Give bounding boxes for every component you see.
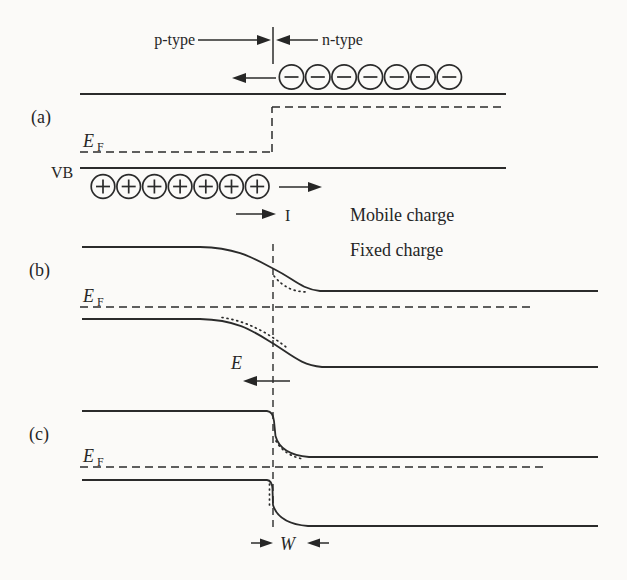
pn-junction-band-diagram: p-type n-type (a) E F VB I Mobile charge <box>0 0 627 580</box>
electron-icon <box>358 65 382 89</box>
width-arrow-right-icon <box>260 539 273 548</box>
fermi-label-a: E <box>82 131 94 151</box>
n-type-label: n-type <box>322 31 363 49</box>
electron-row <box>279 65 461 89</box>
panel-b-label: (b) <box>29 260 50 281</box>
hole-row <box>91 175 269 199</box>
fermi-label-b: E <box>82 286 94 306</box>
current-label: I <box>285 207 290 224</box>
panel-b: (b) E F E <box>29 247 598 386</box>
fixed-charge-label: Fixed charge <box>350 240 443 260</box>
panel-c: (c) E F W <box>29 411 598 554</box>
valence-band-curve-c <box>82 480 598 526</box>
fermi-label-c: E <box>82 446 94 466</box>
hole-flow-arrow-right-icon <box>308 182 322 192</box>
n-type-arrow-left-icon <box>276 35 290 45</box>
field-arrow-left-icon <box>243 376 257 386</box>
field-label: E <box>230 353 242 373</box>
hole-icon <box>168 175 192 199</box>
panel-c-label: (c) <box>29 424 49 445</box>
hole-icon <box>91 175 115 199</box>
valence-band-label: VB <box>51 164 73 181</box>
hole-icon <box>194 175 218 199</box>
electron-icon <box>306 65 330 89</box>
mobile-charge-label: Mobile charge <box>350 205 454 225</box>
electron-icon <box>437 65 461 89</box>
valence-band-curve-b <box>82 319 598 367</box>
electron-icon <box>411 65 435 89</box>
hole-icon <box>143 175 167 199</box>
electron-flow-arrow-left-icon <box>232 73 246 83</box>
conduction-band-curve-b <box>82 247 598 291</box>
electron-icon <box>385 65 409 89</box>
legend: I Mobile charge Fixed charge <box>236 205 454 260</box>
panel-a-label: (a) <box>31 107 51 128</box>
p-type-label: p-type <box>154 31 195 49</box>
electron-icon <box>332 65 356 89</box>
conduction-band-curve-c <box>82 411 598 457</box>
hole-icon <box>220 175 244 199</box>
hole-icon <box>117 175 141 199</box>
electron-icon <box>279 65 303 89</box>
p-type-arrow-right-icon <box>257 35 271 45</box>
panel-a: p-type n-type (a) E F VB <box>31 27 506 198</box>
diagram-canvas: p-type n-type (a) E F VB I Mobile charge <box>0 0 627 580</box>
current-arrow-right-icon <box>262 209 276 219</box>
depletion-width-label: W <box>280 534 297 554</box>
hole-icon <box>245 175 269 199</box>
